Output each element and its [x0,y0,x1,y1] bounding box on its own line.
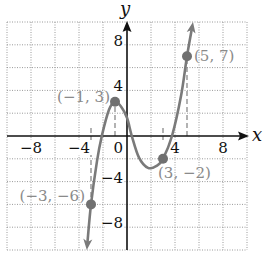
point-marker [158,154,168,164]
y-axis-title: y [119,0,131,19]
x-tick-label: −8 [20,139,42,157]
x-tick-label: −4 [68,139,90,157]
x-tick-label: 8 [218,139,228,157]
point-marker [86,199,96,209]
y-tick-label: −4 [101,169,123,187]
y-tick-label: 4 [113,77,123,95]
point-label: (5, 7) [194,47,234,65]
axes: x y [7,0,262,250]
point-marker [110,97,120,107]
point-marker [182,51,192,61]
point-label: (3, −2) [158,164,211,182]
x-tick-label: 0 [113,139,123,157]
y-tick-label: 8 [113,32,123,50]
x-axis-title: x [252,124,262,145]
point-label: (−3, −6) [20,187,85,205]
y-tick-label: −8 [101,214,123,232]
point-label: (−1, 3) [57,88,110,106]
x-tick-label: 4 [170,139,180,157]
function-graph: x y −8−404884−4−8 (−1, 3)(3, −2)(−3, −6)… [0,0,266,257]
